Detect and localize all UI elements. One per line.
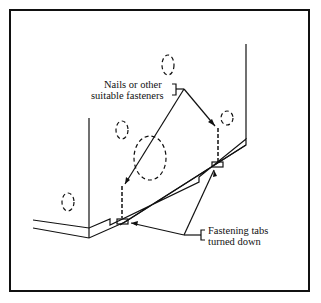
hole-4 <box>221 111 233 125</box>
tabs-label-line2: turned down <box>208 236 261 247</box>
fastening-diagram <box>0 0 321 303</box>
arrow-fastener-left <box>125 89 184 184</box>
hole-2 <box>116 121 128 139</box>
hole-1 <box>162 55 174 75</box>
arrow-tab-left <box>131 223 184 235</box>
hole-5 <box>62 193 74 211</box>
fasteners-label-line2: suitable fasteners <box>91 90 164 101</box>
hole-3 <box>134 136 166 180</box>
base-strip-top <box>33 139 246 228</box>
tabs-label-line1: Fastening tabs <box>208 225 268 236</box>
fasteners-label-line1: Nails or other <box>104 79 162 90</box>
